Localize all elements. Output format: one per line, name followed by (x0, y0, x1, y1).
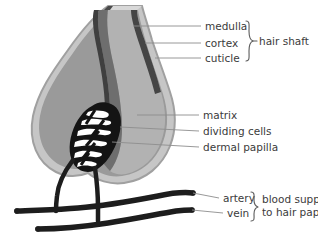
artery-vessel (17, 193, 193, 211)
label-vein: vein (227, 207, 249, 219)
label-cortex: cortex (205, 37, 238, 49)
shaft-top-face (108, 6, 142, 10)
label-hair-shaft: hair shaft (259, 35, 309, 47)
vein-vessel (38, 210, 192, 229)
group-braces (246, 21, 258, 221)
label-artery: artery (223, 192, 255, 204)
label-medulla: medulla (205, 20, 247, 32)
capillary-loop-right (95, 168, 98, 221)
hair-follicle-diagram: medulla cortex cuticle matrix dividing c… (0, 0, 318, 243)
label-texts: medulla cortex cuticle matrix dividing c… (203, 20, 278, 219)
vein-end-cap (35, 226, 41, 232)
leader-vein (192, 210, 223, 213)
label-blood-supply-line1: blood supply (262, 193, 318, 205)
label-cuticle: cuticle (205, 52, 240, 64)
label-dermal-papilla: dermal papilla (203, 141, 278, 153)
label-dividing-cells: dividing cells (203, 125, 272, 137)
artery-end-cap (14, 208, 20, 214)
leader-artery (193, 193, 219, 198)
label-matrix: matrix (203, 109, 237, 121)
label-blood-supply-line2: to hair papilla (262, 206, 318, 218)
shaft-cut-edge (104, 6, 142, 10)
